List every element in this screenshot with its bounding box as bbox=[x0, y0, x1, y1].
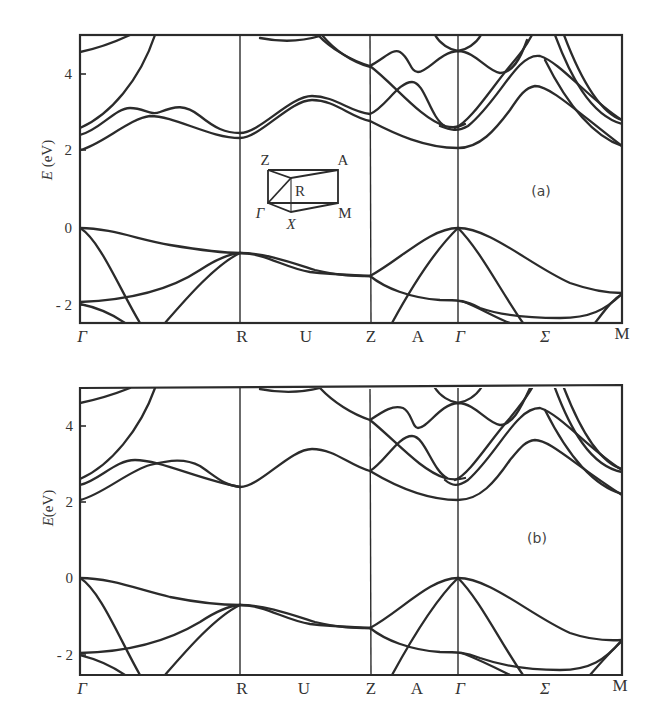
xtick-label-R: R bbox=[236, 679, 248, 698]
panel-b: 4 2 0 - 2 E(eV) Γ R U Z A Γ Σ M (b) bbox=[40, 385, 628, 698]
xtick-label-U: U bbox=[298, 679, 310, 698]
band-line bbox=[165, 605, 240, 675]
ytick-label: 2 bbox=[65, 142, 73, 158]
xtick-label-A: A bbox=[411, 679, 424, 698]
panel-a-frame bbox=[80, 35, 622, 323]
xtick-label-sigma: Σ bbox=[539, 679, 550, 698]
band-line bbox=[260, 388, 320, 392]
band-line bbox=[240, 449, 370, 487]
ytick-label: - 2 bbox=[57, 647, 73, 663]
band-line bbox=[80, 655, 125, 675]
symmetry-line-Z bbox=[370, 389, 371, 675]
xtick-label-gamma: Γ bbox=[454, 327, 466, 346]
band-line bbox=[370, 82, 445, 126]
band-line bbox=[370, 66, 465, 127]
xtick-label-R: R bbox=[236, 327, 248, 346]
ytick-label: 0 bbox=[65, 220, 73, 236]
xtick-label-M: M bbox=[612, 676, 627, 695]
ytick-label: - 2 bbox=[56, 297, 72, 313]
xtick-label-Z: Z bbox=[366, 327, 376, 346]
band-line bbox=[370, 40, 527, 73]
bz-label-gamma: Γ bbox=[255, 205, 266, 221]
band-line bbox=[240, 100, 370, 138]
band-line bbox=[455, 388, 532, 480]
band-line bbox=[392, 578, 458, 675]
band-line bbox=[260, 36, 320, 41]
panel-a: 4 2 0 - 2 E (eV) Γ R U Z A Γ Σ M (a) Z A… bbox=[39, 35, 630, 346]
xtick-label-U: U bbox=[300, 327, 312, 346]
band-line bbox=[392, 228, 458, 323]
band-line bbox=[165, 253, 240, 323]
band-line bbox=[555, 35, 622, 124]
band-line bbox=[80, 578, 140, 675]
y-axis-label: E (eV) bbox=[39, 140, 56, 181]
xtick-label-gamma: Γ bbox=[76, 679, 88, 698]
ytick-label: 4 bbox=[65, 66, 73, 82]
ytick-label: 2 bbox=[66, 494, 74, 510]
bz-edge bbox=[268, 170, 338, 178]
band-structure-figure: 4 2 0 - 2 E (eV) Γ R U Z A Γ Σ M (a) Z A… bbox=[0, 0, 664, 727]
band-line bbox=[80, 253, 240, 302]
ytick-label: 0 bbox=[66, 570, 74, 586]
band-line bbox=[545, 60, 622, 146]
xtick-label-gamma: Γ bbox=[454, 679, 466, 698]
xtick-label-A: A bbox=[412, 327, 425, 346]
panel-label-b: (b) bbox=[527, 530, 547, 546]
band-line bbox=[320, 388, 370, 420]
bz-edge bbox=[268, 203, 338, 212]
bz-label-Z: Z bbox=[260, 152, 269, 168]
ytick-label: 4 bbox=[66, 418, 74, 434]
band-line bbox=[458, 228, 523, 323]
band-line bbox=[80, 228, 240, 253]
band-line bbox=[240, 605, 370, 628]
band-line bbox=[545, 410, 622, 494]
xtick-label-gamma: Γ bbox=[76, 327, 88, 346]
bz-label-A: A bbox=[338, 152, 349, 168]
band-line bbox=[80, 304, 125, 323]
xtick-label-Z: Z bbox=[366, 679, 376, 698]
band-line bbox=[370, 228, 622, 293]
band-line bbox=[80, 578, 240, 605]
bz-edge bbox=[268, 178, 291, 203]
band-line bbox=[370, 436, 447, 478]
band-line bbox=[80, 107, 240, 135]
band-line bbox=[462, 301, 510, 323]
band-line bbox=[240, 253, 370, 276]
symmetry-line-Z bbox=[370, 35, 371, 323]
panel-label-a: (a) bbox=[531, 183, 551, 199]
bz-label-M: M bbox=[338, 205, 351, 221]
band-line bbox=[80, 605, 240, 653]
panel-a-bands bbox=[80, 35, 622, 323]
band-line bbox=[80, 35, 130, 52]
brillouin-zone-inset: Z A R Γ X M bbox=[255, 152, 352, 232]
band-line bbox=[80, 228, 140, 323]
xtick-label-sigma: Σ bbox=[539, 327, 550, 346]
y-axis-label: E(eV) bbox=[40, 490, 57, 528]
band-line bbox=[555, 388, 622, 472]
band-line bbox=[322, 35, 370, 67]
band-line bbox=[80, 388, 130, 403]
xtick-label-M: M bbox=[614, 324, 629, 343]
bz-label-X: X bbox=[285, 216, 296, 232]
bz-label-R: R bbox=[295, 183, 305, 199]
band-line bbox=[590, 641, 622, 675]
